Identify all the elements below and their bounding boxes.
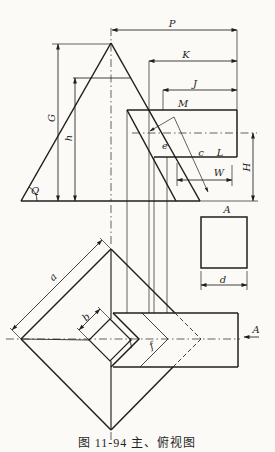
technical-drawing: P K J M G h Q e c L W H A d a b f f A 图 … — [0, 0, 275, 452]
dim-label-e: e — [162, 140, 168, 151]
arrow-label-a: A — [251, 324, 259, 335]
projection-lines — [127, 61, 167, 313]
aux-square — [201, 217, 247, 268]
dim-label-b: b — [80, 311, 92, 323]
top-view — [6, 205, 259, 440]
figure-caption: 图 11-94 主、俯视图 — [78, 435, 197, 450]
dim-label-q: Q — [31, 185, 39, 196]
dim-label-hh: H — [241, 162, 252, 172]
cut-chevron-inner — [140, 313, 168, 367]
dimension-labels: P K J M G h Q e c L W H A d a b f f A — [31, 18, 260, 352]
dim-label-a: a — [47, 271, 59, 283]
dim-label-g: G — [46, 114, 57, 122]
dim-label-m: M — [177, 98, 189, 109]
dim-label-h: h — [63, 135, 74, 141]
dim-label-p: P — [168, 18, 176, 29]
dim-label-d: d — [220, 274, 226, 285]
view-label-a: A — [222, 204, 230, 215]
cut-chevron-outer — [111, 313, 139, 367]
figure-canvas: P K J M G h Q e c L W H A d a b f f A 图 … — [0, 0, 275, 452]
dim-label-k: K — [181, 49, 190, 60]
dim-label-w: W — [214, 167, 225, 178]
dim-a — [10, 238, 111, 339]
dim-label-j: J — [191, 78, 198, 89]
dim-label-c: c — [198, 147, 204, 158]
dim-label-l: L — [216, 147, 224, 158]
dim-label-f2: f — [146, 339, 157, 352]
